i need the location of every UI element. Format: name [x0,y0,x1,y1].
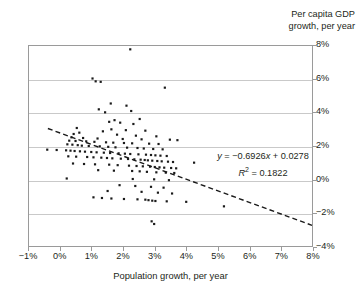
data-point [154,200,156,202]
x-tick-mark [218,247,219,251]
data-point [113,119,115,121]
x-tick-label: −1% [11,251,45,261]
x-tick-mark [155,247,156,251]
data-point [108,121,110,123]
data-point [131,170,133,172]
x-tick-mark [28,247,29,251]
x-tick-mark [186,247,187,251]
data-point [128,165,130,167]
y-axis-title: Per capita GDP growth, per year [243,8,355,32]
x-tick-mark [313,247,314,251]
data-point [176,139,178,141]
data-point [142,165,144,167]
data-point [175,167,177,169]
data-point [117,164,119,166]
data-point [78,132,80,134]
data-point [167,161,169,163]
data-point [149,166,151,168]
data-point [93,141,95,143]
y-tick-label: 6% [316,73,356,83]
data-point [76,127,78,129]
data-point [109,152,111,154]
data-point [56,149,58,151]
x-tick-label: 2% [106,251,140,261]
data-point [110,128,112,130]
x-tick-label: 6% [233,251,267,261]
data-point [74,140,76,142]
data-point [147,199,149,201]
data-point [150,186,152,188]
scatter-chart: Per capita GDP growth, per year 8%6%4%2%… [0,0,361,294]
y-tick-label: 8% [316,39,356,49]
data-point [173,172,175,174]
data-point [154,154,156,156]
data-point [164,87,166,89]
data-point [90,151,92,153]
data-point [123,142,125,144]
data-point [124,153,126,155]
data-point [132,123,134,125]
data-point [161,160,163,162]
data-point [110,102,112,104]
data-point [171,192,173,194]
data-points [46,48,225,225]
plot-canvas [29,46,312,246]
y-tick-mark [313,213,317,214]
data-point [185,201,187,203]
data-point [157,192,159,194]
data-point [135,135,137,137]
data-point [151,200,153,202]
data-point [122,138,124,140]
data-point [154,166,156,168]
data-point [73,133,75,135]
data-point [157,143,159,145]
data-point [83,163,85,165]
data-point [75,156,77,158]
y-tick-mark [313,112,317,113]
data-point [107,190,109,192]
data-point [130,110,132,112]
data-point [95,80,97,82]
data-point [77,144,79,146]
data-point [65,149,67,151]
data-point [101,197,103,199]
y-tick-label: −2% [316,207,356,217]
data-point [169,139,171,141]
data-point [193,162,195,164]
data-point [146,171,148,173]
x-tick-mark [281,247,282,251]
data-point [96,137,98,139]
data-point [123,198,125,200]
data-point [85,140,87,142]
data-point [111,157,113,159]
data-point [140,138,142,140]
data-point [144,199,146,201]
data-point [84,151,86,153]
data-point [143,147,145,149]
x-tick-label: 1% [74,251,108,261]
data-point [100,81,102,83]
data-point [70,136,72,138]
data-point [66,177,68,179]
data-point [102,130,104,132]
data-point [135,165,137,167]
data-point [74,150,76,152]
data-point [144,159,146,161]
data-point [158,166,160,168]
data-point [108,164,110,166]
data-point [165,172,167,174]
y-tick-mark [313,79,317,80]
data-point [166,200,168,202]
data-point [170,167,172,169]
data-point [148,143,150,145]
data-point [163,167,165,169]
data-point [103,152,105,154]
data-point [223,205,225,207]
data-point [162,148,164,150]
data-point [81,145,83,147]
regression-equation: y = −0.6926x + 0.0278 [200,150,326,163]
data-point [116,134,118,136]
data-point [112,142,114,144]
data-point [98,108,100,110]
data-point [131,142,133,144]
